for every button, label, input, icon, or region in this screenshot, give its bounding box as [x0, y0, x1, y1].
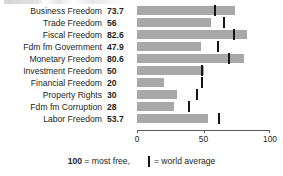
legend-most-free-text: = most free,	[82, 156, 130, 166]
row-plot-area	[137, 53, 270, 65]
value-label: 56	[107, 17, 117, 29]
category-label: Fdm fm Corruption	[30, 101, 102, 113]
value-label: 53.7	[107, 113, 124, 125]
value-bar	[137, 90, 177, 99]
row-plot-area	[137, 77, 270, 89]
x-axis-tick-label: 100	[263, 134, 277, 144]
legend-most-free: 100 = most free,	[68, 156, 130, 166]
value-label: 30	[107, 89, 117, 101]
row-plot-area	[137, 89, 270, 101]
value-label: 28	[107, 101, 117, 113]
category-label: Labor Freedom	[43, 113, 102, 125]
world-average-marker	[201, 65, 203, 76]
value-bar	[137, 114, 208, 123]
world-average-marker	[214, 5, 216, 16]
row-plot-area	[137, 29, 270, 41]
x-axis-tick	[269, 130, 270, 133]
x-axis: 050100	[137, 130, 270, 150]
chart-row: Fdm fm Corruption28	[0, 101, 283, 113]
vertical-tick-icon	[148, 156, 150, 167]
economic-freedom-bar-chart: Business Freedom73.7Trade Freedom56Fisca…	[0, 0, 283, 176]
value-label: 47.9	[107, 41, 124, 53]
value-bar	[137, 78, 164, 87]
category-label: Fiscal Freedom	[43, 29, 102, 41]
row-plot-area	[137, 101, 270, 113]
world-average-marker	[201, 77, 203, 88]
value-label: 20	[107, 77, 117, 89]
category-label: Investment Freedom	[23, 65, 102, 77]
category-label: Monetary Freedom	[29, 53, 102, 65]
chart-row: Financial Freedom20	[0, 77, 283, 89]
chart-row: Investment Freedom50	[0, 65, 283, 77]
legend-world-average: = world average	[148, 156, 215, 167]
chart-rows: Business Freedom73.7Trade Freedom56Fisca…	[0, 5, 283, 125]
value-bar	[137, 42, 201, 51]
legend-most-free-number: 100	[68, 156, 82, 166]
x-axis-tick-label: 50	[199, 134, 208, 144]
chart-row: Labor Freedom53.7	[0, 113, 283, 125]
world-average-marker	[233, 29, 235, 40]
value-label: 50	[107, 65, 117, 77]
chart-row: Fiscal Freedom82.6	[0, 29, 283, 41]
chart-row: Monetary Freedom80.6	[0, 53, 283, 65]
value-label: 82.6	[107, 29, 124, 41]
legend-world-average-text: = world average	[154, 156, 215, 166]
row-plot-area	[137, 41, 270, 53]
row-plot-area	[137, 5, 270, 17]
chart-row: Property Rights30	[0, 89, 283, 101]
row-plot-area	[137, 17, 270, 29]
category-label: Financial Freedom	[31, 77, 102, 89]
category-label: Fdm fm Government	[23, 41, 102, 53]
chart-row: Fdm fm Government47.9	[0, 41, 283, 53]
category-label: Property Rights	[43, 89, 102, 101]
value-label: 73.7	[107, 5, 124, 17]
x-axis-tick-label: 0	[135, 134, 140, 144]
world-average-marker	[196, 89, 198, 100]
world-average-marker	[217, 41, 219, 52]
x-axis-tick	[137, 130, 138, 133]
row-plot-area	[137, 113, 270, 125]
value-bar	[137, 30, 247, 39]
world-average-marker	[228, 53, 230, 64]
category-label: Business Freedom	[30, 5, 102, 17]
value-bar	[137, 66, 204, 75]
cropped-title-sliver	[4, 0, 124, 4]
value-bar	[137, 18, 211, 27]
chart-row: Trade Freedom56	[0, 17, 283, 29]
x-axis-tick	[204, 130, 205, 133]
chart-legend: 100 = most free, = world average	[0, 153, 283, 169]
value-label: 80.6	[107, 53, 124, 65]
row-plot-area	[137, 65, 270, 77]
world-average-marker	[218, 113, 220, 124]
world-average-marker	[223, 17, 225, 28]
value-bar	[137, 102, 174, 111]
value-bar	[137, 6, 235, 15]
world-average-marker	[188, 101, 190, 112]
chart-row: Business Freedom73.7	[0, 5, 283, 17]
category-label: Trade Freedom	[43, 17, 102, 29]
